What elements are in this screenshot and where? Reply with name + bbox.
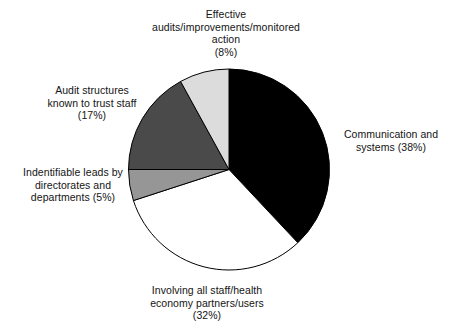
- pie-label-communication-and-systems: Communication and systems (38%): [335, 128, 447, 153]
- pie-label-indentifiable-leads: Indentifiable leads by directorates and …: [6, 166, 140, 204]
- pie-label-audit-structures: Audit structures known to trust staff (1…: [22, 84, 162, 122]
- pie-label-effective-audits: Effective audits/improvements/monitored …: [133, 8, 319, 58]
- pie-label-involving-all-staff: Involving all staff/health economy partn…: [114, 284, 300, 322]
- pie-chart: Communication and systems (38%)Involving…: [0, 0, 449, 331]
